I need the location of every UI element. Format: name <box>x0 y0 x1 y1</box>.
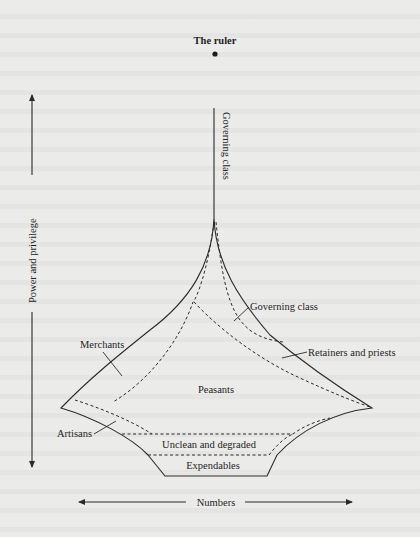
governing-class-vertical-label: Governing class <box>221 112 232 180</box>
ruler-dot <box>212 51 217 56</box>
governing-class-label: Governing class <box>250 301 318 312</box>
merchants-label: Merchants <box>80 339 124 350</box>
agrarian-society-diagram: The ruler Governing class Power and priv… <box>0 0 420 537</box>
numbers-axis-label: Numbers <box>197 497 236 508</box>
power-axis-label: Power and privilege <box>27 218 38 303</box>
artisans-leader <box>94 421 116 434</box>
merchants-boundary <box>113 222 214 402</box>
retainers-leader <box>282 352 307 358</box>
unclean-boundary <box>122 418 330 434</box>
unclean-label: Unclean and degraded <box>162 439 257 450</box>
artisans-label: Artisans <box>57 428 92 439</box>
retainers-label: Retainers and priests <box>308 347 395 358</box>
peasants-label: Peasants <box>198 384 234 395</box>
governing-class-boundary <box>216 222 283 342</box>
ruler-label: The ruler <box>194 35 237 46</box>
diagram-page: The ruler Governing class Power and priv… <box>0 0 420 537</box>
expendables-label: Expendables <box>186 460 240 471</box>
